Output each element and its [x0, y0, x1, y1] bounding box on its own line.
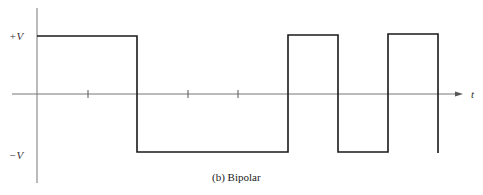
x-axis-label: t [471, 88, 475, 100]
figure-caption: (b) Bipolar [212, 171, 261, 184]
y-label-positive: +V [9, 30, 24, 42]
bipolar-waveform-diagram: +V −V t (b) Bipolar [0, 0, 483, 195]
y-label-negative: −V [9, 149, 24, 161]
x-axis-arrow-icon [455, 92, 463, 97]
